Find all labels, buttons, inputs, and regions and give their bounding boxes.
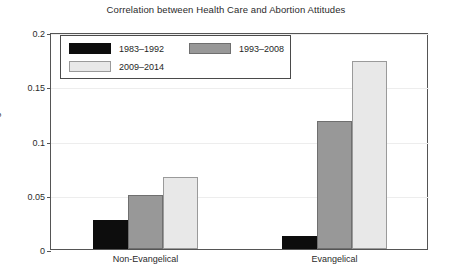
legend-swatch-icon [189,43,231,54]
bar [128,195,163,249]
y-axis-label: Average Correlation [0,31,1,171]
bar [163,177,198,249]
legend-swatch-icon [69,61,111,72]
legend-label: 1993–2008 [239,44,284,54]
bar [93,220,128,249]
x-tick-label: Evangelical [311,254,357,264]
y-tick-mark [47,197,51,198]
legend-item[interactable]: 2009–2014 [69,61,164,72]
bar-chart: Correlation between Health Care and Abor… [0,0,452,273]
y-tick-mark [47,143,51,144]
legend-item[interactable]: 1993–2008 [189,43,284,54]
y-tick-mark [47,34,51,35]
legend-label: 2009–2014 [119,62,164,72]
legend-swatch-icon [69,43,111,54]
bar [282,236,317,249]
legend-label: 1983–1992 [119,44,164,54]
y-tick-mark [47,251,51,252]
chart-title: Correlation between Health Care and Abor… [0,4,452,15]
y-tick-mark [47,88,51,89]
legend-item[interactable]: 1983–1992 [69,43,164,54]
bar [352,61,387,249]
bar [317,121,352,249]
x-tick-label: Non-Evangelical [113,254,179,264]
legend: 1983–19921993–20082009–2014 [60,35,291,79]
